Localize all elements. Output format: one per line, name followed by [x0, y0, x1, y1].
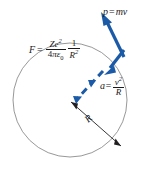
inverse-square-fraction: 1 R2: [68, 39, 81, 60]
coulomb-denominator: 4πε0: [46, 50, 66, 61]
momentum-vector-arrow: [101, 12, 124, 57]
inverse-square-exponent: 2: [75, 48, 78, 55]
vector-layer: [0, 0, 157, 180]
inverse-square-numerator: 1: [70, 39, 79, 48]
acceleration-denominator: R: [114, 88, 124, 97]
force-equals: =: [35, 45, 45, 55]
force-vector-arrow: [104, 50, 124, 75]
acceleration-numerator: v2: [113, 76, 124, 87]
physics-orbit-diagram: p=mv a= v2 R R F= Ze2 4πε0 1 R2: [0, 0, 157, 180]
acceleration-label: a= v2 R: [100, 76, 125, 97]
acceleration-equals: =: [105, 80, 112, 91]
acceleration-vector-arrow: [73, 71, 103, 104]
momentum-label: p=mv: [103, 7, 127, 17]
coulomb-numerator-exponent: 2: [59, 37, 62, 44]
force-formula-label: F= Ze2 4πε0 1 R2: [29, 38, 81, 61]
inverse-square-denominator: R2: [68, 49, 81, 60]
coulomb-numerator: Ze2: [48, 38, 64, 49]
coulomb-constant-fraction: Ze2 4πε0: [46, 38, 66, 61]
momentum-equals: =: [108, 6, 116, 17]
acceleration-fraction: v2 R: [113, 76, 124, 97]
acceleration-numerator-exponent: 2: [119, 75, 122, 82]
momentum-expression: mv: [116, 6, 128, 17]
